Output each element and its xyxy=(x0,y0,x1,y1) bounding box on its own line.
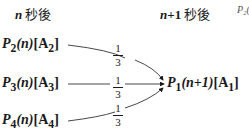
edge-p4-to-p1-head xyxy=(125,88,163,108)
header-text: 秒後 xyxy=(181,7,210,22)
node-p: P xyxy=(2,75,11,90)
node-close: ] xyxy=(54,75,59,90)
node-arg: (n+1) xyxy=(181,75,213,90)
header-op: +1 xyxy=(167,7,181,22)
node-p: P xyxy=(2,112,11,127)
node-p4: P4(n)[A4] xyxy=(2,112,59,131)
fraction-denominator: 3 xyxy=(113,117,123,128)
node-p1-target: P1(n+1)[A1] xyxy=(167,75,239,94)
header-text: 秒後 xyxy=(22,7,51,22)
node-arg: (n) xyxy=(16,112,33,127)
fraction-numerator: 1 xyxy=(113,75,123,86)
weight-fraction-p3: 1 3 xyxy=(113,75,123,100)
fraction-denominator: 3 xyxy=(113,57,123,68)
fraction-denominator: 3 xyxy=(113,89,123,100)
cutoff-label: P₂(i xyxy=(237,4,249,15)
edge-p2-to-p1-head xyxy=(135,60,163,80)
node-p3: P3(n)[A3] xyxy=(2,75,59,94)
node-state: [A xyxy=(34,75,49,90)
header-time-n: n 秒後 xyxy=(15,4,51,23)
node-p: P xyxy=(167,75,176,90)
fraction-numerator: 1 xyxy=(113,103,123,114)
node-arg: (n) xyxy=(16,36,33,51)
node-arg: (n) xyxy=(16,75,33,90)
node-p: P xyxy=(2,36,11,51)
header-time-n-plus-1: n+1 秒後 xyxy=(160,4,210,23)
node-p2: P2(n)[A2] xyxy=(2,36,59,55)
node-state: [A xyxy=(34,112,49,127)
edge-p4-to-p1 xyxy=(68,112,115,121)
weight-fraction-p2: 1 3 xyxy=(113,43,123,68)
node-close: ] xyxy=(234,75,239,90)
node-state: [A xyxy=(34,36,49,51)
fraction-numerator: 1 xyxy=(113,43,123,54)
node-state: [A xyxy=(213,75,228,90)
weight-fraction-p4: 1 3 xyxy=(113,103,123,128)
node-close: ] xyxy=(54,112,59,127)
node-close: ] xyxy=(54,36,59,51)
